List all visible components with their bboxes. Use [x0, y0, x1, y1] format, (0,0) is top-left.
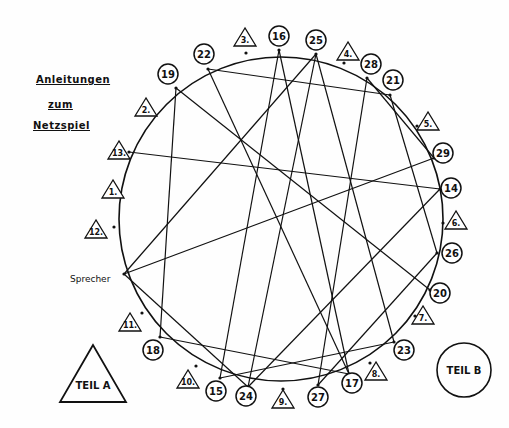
circle-point: [206, 67, 209, 70]
node-label: 28: [364, 59, 378, 70]
circle-point: [277, 48, 280, 51]
connection-18-17: [160, 337, 349, 374]
triangle-label: 8.: [372, 370, 381, 379]
triangle-label: 13.: [112, 149, 126, 158]
circle-point: [435, 251, 438, 254]
node-27: 27: [308, 387, 328, 407]
circle-point: [122, 272, 125, 275]
triangle-label: 5.: [424, 120, 433, 129]
connection-19-18: [160, 88, 176, 337]
node-17: 17: [342, 373, 362, 393]
connection-16-15: [220, 50, 279, 378]
teil-b-label: TEIL B: [447, 365, 482, 376]
circle-point: [218, 376, 221, 379]
network-svg: 16252821221929142620231727241518 3.4.5.6…: [0, 0, 509, 428]
circle-point: [392, 340, 395, 343]
node-label: 16: [272, 31, 286, 42]
node-15: 15: [206, 381, 226, 401]
triangle-label: 4.: [344, 50, 353, 59]
circle-point: [112, 225, 115, 228]
connection-Sprecher-24: [124, 274, 248, 387]
teil-a-marker: TEIL A: [60, 345, 126, 402]
node-22: 22: [194, 44, 214, 64]
circle-point: [174, 86, 177, 89]
triangle-label: 9.: [279, 398, 288, 407]
triangle-marker-6: 6.: [445, 211, 467, 229]
teil-b-marker: TEIL B: [437, 343, 491, 397]
circle-point: [140, 311, 143, 314]
node-28: 28: [361, 54, 381, 74]
node-14: 14: [441, 178, 461, 198]
circle-tick-marks: [112, 48, 444, 390]
triangle-marker-2: 2.: [135, 98, 157, 116]
triangle-marker-13: 13.: [108, 141, 130, 159]
node-label: 22: [197, 49, 211, 60]
triangle-label: 11.: [123, 321, 137, 330]
triangle-label: 7.: [419, 314, 428, 323]
triangle-label: 10.: [181, 378, 195, 387]
triangle-marker-1: 1.: [102, 180, 124, 198]
triangle-marker-12: 12.: [85, 220, 107, 238]
node-26: 26: [442, 243, 462, 263]
connection-25-24: [248, 54, 316, 387]
connection-13-14: [129, 152, 440, 189]
circle-point: [314, 52, 317, 55]
triangle-marker-4: 4.: [337, 42, 359, 60]
triangle-label: 6.: [452, 219, 461, 228]
node-label: 21: [386, 75, 400, 86]
circle-point: [388, 93, 391, 96]
triangle-marker-9: 9.: [272, 390, 294, 408]
node-label: 20: [433, 288, 447, 299]
node-label: 19: [161, 69, 175, 80]
teil-a-triangle: [60, 345, 126, 402]
triangle-marker-10: 10.: [177, 370, 199, 388]
triangle-label: 12.: [89, 228, 103, 237]
triangle-marker-3: 3.: [234, 28, 256, 46]
triangle-label: 2.: [142, 106, 151, 115]
node-label: 25: [309, 35, 323, 46]
node-25: 25: [306, 30, 326, 50]
node-18: 18: [143, 340, 163, 360]
triangle-marker-11: 11.: [119, 313, 141, 331]
node-label: 29: [436, 148, 450, 159]
triangle-label: 3.: [241, 36, 250, 45]
circle-point: [316, 383, 319, 386]
node-label: 18: [146, 345, 160, 356]
node-label: 26: [445, 248, 459, 259]
circle-point: [127, 150, 130, 153]
node-label: 15: [209, 386, 223, 397]
netzspiel-diagram: Anleitungen zum Netzspiel Sprecher 16252…: [0, 0, 509, 428]
connection-23-15: [220, 342, 394, 378]
circle-point: [441, 221, 444, 224]
circle-point: [342, 61, 345, 64]
triangle-label: 1.: [109, 188, 118, 197]
node-21: 21: [383, 70, 403, 90]
node-16: 16: [269, 26, 289, 46]
circle-point: [158, 335, 161, 338]
circle-point: [244, 51, 247, 54]
node-19: 19: [158, 64, 178, 84]
circle-point: [368, 361, 371, 364]
circle-point: [365, 76, 368, 79]
node-23: 23: [394, 340, 414, 360]
node-label: 24: [239, 391, 253, 402]
node-label: 17: [345, 378, 359, 389]
teil-a-label: TEIL A: [76, 380, 111, 391]
node-label: 14: [444, 183, 458, 194]
node-24: 24: [236, 386, 256, 406]
triangle-marker-5: 5.: [417, 112, 439, 130]
node-label: 23: [397, 345, 411, 356]
circle-point: [194, 364, 197, 367]
triangle-marker-8: 8.: [365, 362, 387, 380]
node-29: 29: [433, 143, 453, 163]
node-label: 27: [311, 392, 325, 403]
node-20: 20: [430, 283, 450, 303]
